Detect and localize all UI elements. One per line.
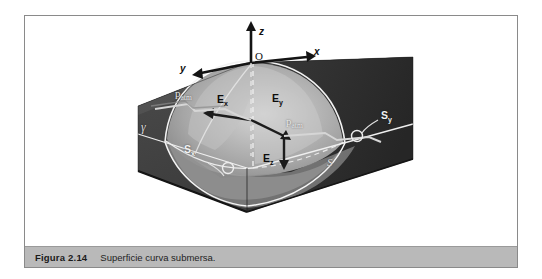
figure-caption-bar: Figura 2.14 Superficie curva submersa. — [25, 246, 517, 267]
figure-caption-number: Figura 2.14 — [35, 252, 87, 263]
figure-caption-text: Superficie curva submersa. — [100, 252, 215, 263]
diagram-illustration: z x y O Ex Ey Ez patm patm Sx Sy S γ — [25, 16, 517, 247]
figure-card: z x y O Ex Ey Ez patm patm Sx Sy S γ Fig… — [24, 15, 518, 268]
submerged-curved-surface-svg — [25, 16, 517, 247]
